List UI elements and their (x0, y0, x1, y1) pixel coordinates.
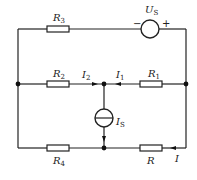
resistor-r3 (47, 26, 69, 32)
label-i: I (174, 153, 180, 164)
current-arrow-i-icon (170, 146, 176, 150)
label-r: R (146, 155, 155, 166)
label-i2: I2 (81, 69, 90, 82)
label-us-plus: + (162, 18, 170, 29)
top-branch (18, 20, 186, 38)
label-us: US (145, 4, 158, 17)
label-us-minus: − (133, 18, 141, 29)
label-i1: I1 (115, 69, 124, 82)
resistor-r (140, 145, 162, 151)
label-is: IS (115, 116, 125, 129)
node-center (102, 82, 107, 87)
resistor-r1 (140, 81, 162, 87)
resistor-r2 (47, 81, 69, 87)
voltage-source-us-icon (141, 20, 159, 38)
circuit-diagram: R3 US − + R2 I2 I1 R1 IS R4 R I (0, 0, 197, 180)
current-arrow-i1-icon (115, 82, 121, 86)
label-r1: R1 (147, 68, 160, 81)
resistor-r4 (47, 145, 69, 151)
node-left (16, 82, 21, 87)
node-right (184, 82, 189, 87)
current-arrow-is-icon (102, 136, 106, 142)
label-r4: R4 (52, 155, 66, 168)
label-r3: R3 (52, 12, 65, 25)
current-source-branch (95, 84, 113, 148)
label-r2: R2 (52, 68, 65, 81)
current-arrow-i2-icon (92, 82, 98, 86)
node-bottom (102, 146, 107, 151)
